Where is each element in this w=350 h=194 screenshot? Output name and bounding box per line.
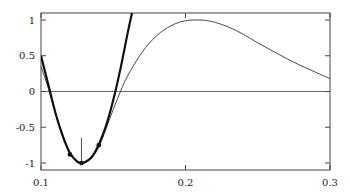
- x-tick-label: 0.1: [33, 177, 49, 188]
- data-point-marker: [79, 161, 84, 166]
- data-point-marker: [68, 152, 73, 157]
- data-series: [41, 13, 330, 163]
- thick-curve: [41, 13, 132, 163]
- y-tick-label: -0.5: [16, 122, 35, 133]
- x-tick-label: 0.3: [322, 177, 338, 188]
- data-point-marker: [97, 143, 102, 148]
- y-tick-label: 0.5: [19, 50, 35, 61]
- x-tick-label: 0.2: [178, 177, 194, 188]
- plot-frame: [41, 13, 330, 170]
- y-tick-label: 0: [29, 86, 35, 97]
- y-tick-label: 1: [29, 15, 35, 26]
- y-tick-label: -1: [25, 158, 35, 169]
- chart: 10.50-0.5-1 0.10.20.3: [0, 0, 350, 194]
